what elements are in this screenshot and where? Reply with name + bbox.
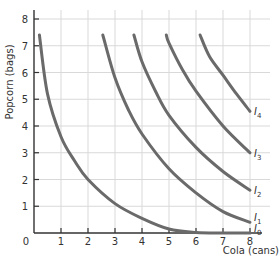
y-axis-ticks: 12345678 <box>22 14 39 212</box>
x-tick-label: 4 <box>139 236 145 247</box>
y-axis-label: Popcorn (bags) <box>4 44 15 119</box>
y-tick-label: 6 <box>22 68 28 79</box>
gridlines <box>34 10 270 233</box>
curve-label-i2: I2 <box>254 185 261 199</box>
y-tick-label: 4 <box>22 121 28 132</box>
x-tick-label: 1 <box>58 236 64 247</box>
y-tick-label: 8 <box>22 14 28 25</box>
x-tick-label: 2 <box>85 236 91 247</box>
curve-label-i3: I3 <box>254 148 261 162</box>
x-tick-label: 5 <box>166 236 172 247</box>
y-tick-label: 3 <box>22 148 28 159</box>
x-axis-ticks: 012345678 <box>23 228 253 247</box>
x-axis-label: Cola (cans) <box>223 245 279 256</box>
indifference-curve-chart: 012345678 12345678 I0I1I2I3I4 Cola (cans… <box>0 0 279 268</box>
indifference-curve-i4 <box>200 35 250 111</box>
x-tick-label: 0 <box>23 236 29 247</box>
indifference-curve-i2 <box>134 35 250 190</box>
indifference-curves <box>39 35 250 233</box>
x-tick-label: 3 <box>112 236 118 247</box>
y-tick-label: 5 <box>22 94 28 105</box>
y-tick-label: 1 <box>22 201 28 212</box>
y-tick-label: 2 <box>22 175 28 186</box>
curve-label-i4: I4 <box>254 106 262 120</box>
axes <box>34 10 262 233</box>
indifference-curve-i1 <box>103 35 250 222</box>
y-tick-label: 7 <box>22 41 28 52</box>
x-tick-label: 6 <box>193 236 199 247</box>
